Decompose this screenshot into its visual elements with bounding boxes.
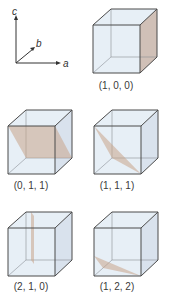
cube-111 <box>94 110 158 174</box>
cube-100 <box>93 9 157 73</box>
miller-planes-diagram: c b a (1, 0, 0) (0, 1, 1) (1, 1, <box>0 0 171 296</box>
cube-label: (1, 0, 0) <box>99 80 133 91</box>
cube-label: (2, 1, 0) <box>14 281 48 292</box>
axes-indicator: c b a <box>12 6 69 69</box>
plane-210 <box>31 212 34 264</box>
cube-label: (0, 1, 1) <box>14 180 48 191</box>
cube-122 <box>94 212 158 276</box>
axis-c-label: c <box>12 6 17 17</box>
axis-b-label: b <box>36 38 42 49</box>
cube-011 <box>8 110 72 174</box>
axis-a-label: a <box>63 58 69 69</box>
cube-210 <box>8 212 72 276</box>
cube-label: (1, 2, 2) <box>100 281 134 292</box>
cube-label: (1, 1, 1) <box>100 180 134 191</box>
